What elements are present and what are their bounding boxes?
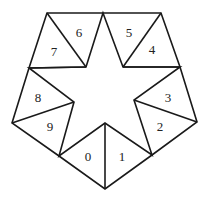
label-9: 9 (47, 119, 54, 134)
label-5: 5 (126, 25, 133, 40)
label-3: 3 (165, 90, 172, 105)
label-2: 2 (157, 119, 164, 134)
label-4: 4 (149, 42, 156, 57)
label-0: 0 (85, 149, 92, 164)
divider-left (12, 102, 74, 123)
divider-top-right (123, 13, 161, 67)
edge-top-left-square-bottom (29, 67, 86, 68)
pentagon-star-diagram: 0 1 2 3 4 5 6 7 8 9 (0, 0, 209, 202)
label-1: 1 (119, 149, 126, 164)
label-6: 6 (76, 25, 83, 40)
divider-top-left (47, 13, 86, 67)
label-8: 8 (35, 90, 42, 105)
label-7: 7 (51, 44, 58, 59)
